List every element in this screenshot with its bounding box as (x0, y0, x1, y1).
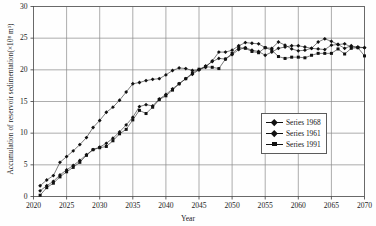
data-point (363, 46, 367, 50)
x-tick-label: 2030 (83, 202, 117, 210)
data-point (343, 46, 347, 50)
data-point (224, 58, 227, 61)
legend-square-marker-icon (266, 140, 283, 149)
data-point (290, 44, 294, 48)
x-tick-label: 2020 (17, 202, 51, 210)
data-point (138, 105, 142, 109)
data-point (184, 77, 187, 80)
gridlines (34, 7, 365, 197)
data-point (92, 148, 95, 151)
legend-item-label: Series 1961 (286, 129, 321, 138)
data-point (58, 175, 61, 178)
data-point (198, 68, 201, 71)
data-point (217, 57, 221, 61)
data-point (296, 49, 300, 53)
data-point (145, 112, 148, 115)
data-point (98, 146, 101, 149)
data-point (217, 67, 220, 70)
data-point (45, 186, 48, 189)
data-point (171, 69, 175, 73)
data-point (210, 60, 214, 64)
y-tick-label: 20 (6, 66, 28, 74)
data-point (277, 46, 281, 50)
legend-item-label: Series 1991 (286, 140, 321, 149)
data-point (270, 49, 273, 52)
data-point (164, 94, 167, 97)
data-point (250, 50, 253, 53)
y-tick-label: 10 (6, 129, 28, 137)
y-tick-label: 5 (6, 161, 28, 169)
legend-diamond-marker-icon (266, 129, 283, 138)
data-point (244, 47, 247, 50)
data-point (65, 170, 68, 173)
data-point (157, 77, 161, 81)
data-point (323, 52, 326, 55)
x-tick-label: 2055 (248, 202, 282, 210)
data-point (105, 145, 108, 148)
data-point (363, 54, 366, 57)
data-point (231, 52, 234, 55)
x-tick-label: 2065 (314, 202, 348, 210)
x-tick-label: 2035 (116, 202, 150, 210)
legend-item: Series 1961 (266, 128, 321, 139)
data-point (72, 166, 75, 169)
data-point (290, 56, 293, 59)
chart-container: Accumulation of reservoir sedimentation(… (0, 0, 376, 226)
data-point (211, 66, 214, 69)
y-tick-label: 25 (6, 34, 28, 42)
data-point (243, 41, 247, 45)
data-point (303, 56, 306, 59)
data-point (177, 66, 181, 70)
chart-legend: Series 1968Series 1961Series 1991 (261, 113, 327, 154)
legend-item: Series 1968 (266, 117, 321, 128)
data-point (118, 132, 121, 135)
data-point (350, 47, 353, 50)
data-point (237, 46, 240, 49)
data-point (337, 47, 340, 50)
data-point (317, 52, 320, 55)
legend-item-label: Series 1968 (286, 118, 321, 127)
data-point (164, 73, 168, 77)
data-point (138, 81, 142, 85)
x-tick-label: 2070 (348, 202, 376, 210)
data-point (323, 48, 327, 52)
data-point (52, 182, 55, 185)
data-point (171, 89, 174, 92)
data-point (296, 44, 300, 48)
data-point (191, 72, 194, 75)
data-point (144, 103, 148, 107)
data-point (343, 42, 347, 46)
data-point (85, 154, 88, 157)
legend-diamond-marker-icon (266, 118, 283, 127)
data-point (131, 118, 134, 121)
data-point (356, 46, 359, 49)
data-point (51, 174, 55, 178)
data-point (329, 39, 333, 43)
data-point (277, 55, 280, 58)
data-point (224, 50, 228, 54)
y-tick-label: 15 (6, 98, 28, 106)
data-point (257, 51, 260, 54)
x-tick-label: 2040 (149, 202, 183, 210)
axis-ticks (31, 7, 365, 200)
data-point (250, 41, 254, 45)
data-point (111, 139, 114, 142)
data-point (336, 43, 340, 47)
x-tick-label: 2025 (50, 202, 84, 210)
data-point (230, 48, 234, 52)
x-tick-label: 2060 (281, 202, 315, 210)
legend-symbol (271, 119, 277, 125)
data-point (151, 77, 155, 81)
data-point (330, 52, 333, 55)
y-tick-label: 0 (6, 193, 28, 201)
x-tick-label: 2050 (215, 202, 249, 210)
data-point (158, 98, 161, 101)
data-point (125, 128, 128, 131)
data-point (39, 194, 42, 197)
data-point (303, 45, 307, 49)
y-tick-label: 30 (6, 3, 28, 11)
x-tick-label: 2045 (182, 202, 216, 210)
data-point (297, 56, 300, 59)
data-point (263, 53, 267, 57)
x-axis-label: Year (0, 214, 376, 223)
